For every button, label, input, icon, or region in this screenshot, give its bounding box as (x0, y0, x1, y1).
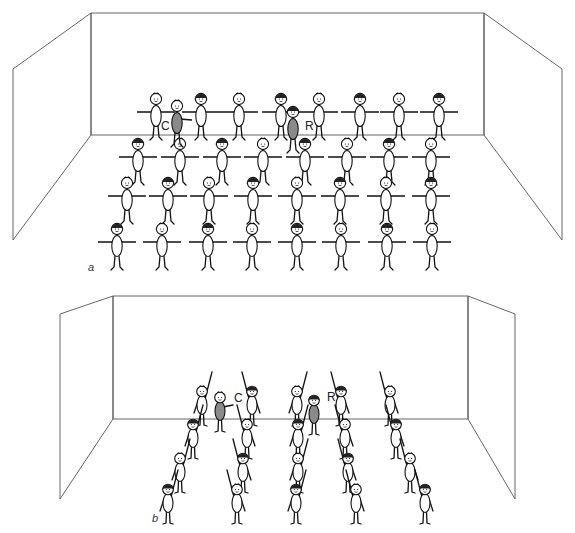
body-icon (242, 429, 252, 448)
body-icon (381, 190, 391, 211)
head-icon (313, 93, 324, 104)
back-wall (91, 13, 484, 135)
head-icon (405, 453, 416, 464)
body-icon (426, 190, 436, 211)
child-figure (413, 223, 451, 270)
body-icon (217, 151, 227, 172)
head-icon (197, 386, 208, 397)
back-wall (113, 296, 468, 419)
child-figure (400, 439, 418, 493)
child-figure (233, 223, 271, 270)
head-icon (171, 100, 182, 111)
child-figure (367, 177, 405, 224)
panel-label-a: a (88, 261, 94, 273)
body-icon (426, 151, 436, 172)
body-icon (175, 463, 185, 482)
body-icon (112, 236, 122, 257)
head-icon (233, 93, 244, 104)
body-icon (172, 113, 182, 134)
body-icon (258, 151, 268, 172)
body-icon (382, 236, 392, 257)
head-icon (150, 93, 161, 104)
body-icon (336, 396, 346, 415)
child-figure (328, 138, 366, 185)
head-icon (426, 223, 437, 234)
head-icon (341, 138, 352, 149)
body-icon (204, 190, 214, 211)
head-icon (215, 392, 226, 403)
body-icon (384, 151, 394, 172)
room-outline (60, 296, 515, 499)
body-icon (355, 106, 365, 127)
body-icon (420, 494, 430, 513)
body-icon (163, 494, 173, 513)
head-icon (156, 223, 167, 234)
child-figure (190, 177, 228, 224)
head-icon (293, 453, 304, 464)
body-icon (157, 236, 167, 257)
body-icon (394, 106, 404, 127)
body-icon (340, 429, 350, 448)
head-icon (380, 177, 391, 188)
body-icon (342, 151, 352, 172)
body-icon (391, 429, 401, 448)
head-icon (257, 138, 268, 149)
child-figure (386, 405, 404, 459)
body-icon (292, 236, 302, 257)
left-wall (13, 13, 91, 240)
body-icon (163, 190, 173, 211)
classroom-formation-diagram: CRa CRb (0, 0, 575, 533)
head-icon (121, 177, 132, 188)
child-figure (322, 223, 360, 270)
body-icon (215, 402, 225, 421)
body-icon (288, 119, 298, 140)
left-wall (60, 296, 113, 499)
head-icon (175, 453, 186, 464)
figure-canvas: CRa CRb (0, 0, 575, 533)
child-figure (143, 223, 181, 270)
body-icon (188, 429, 198, 448)
body-icon (335, 190, 345, 211)
body-icon (234, 106, 244, 127)
head-icon (291, 177, 302, 188)
head-icon (351, 484, 362, 495)
child-figure (149, 177, 187, 224)
head-icon (393, 93, 404, 104)
body-icon (247, 396, 257, 415)
child-figure (234, 177, 272, 224)
child-figure (286, 138, 324, 185)
child-figure (278, 223, 316, 270)
figure-C (215, 392, 233, 432)
child-figure (412, 177, 450, 224)
head-icon (242, 419, 253, 430)
child-figure (380, 93, 418, 140)
child-figure (420, 93, 458, 140)
child-figure (220, 93, 258, 140)
body-icon (133, 151, 143, 172)
child-figure (160, 470, 178, 524)
child-figure (242, 372, 260, 426)
right-wall (468, 296, 515, 499)
body-icon (434, 106, 444, 127)
figure-R (287, 106, 299, 153)
body-icon (232, 494, 242, 513)
body-icon (248, 190, 258, 211)
panel-a: CRa (13, 13, 562, 273)
body-icon (309, 405, 319, 424)
label-R: R (305, 119, 314, 133)
child-figure (98, 223, 136, 270)
head-icon (292, 386, 303, 397)
body-icon (175, 151, 185, 172)
body-icon (122, 190, 132, 211)
label-C: C (161, 119, 170, 133)
child-figure (182, 93, 220, 140)
body-icon (196, 106, 206, 127)
child-figure (341, 93, 379, 140)
body-icon (203, 236, 213, 257)
body-icon (293, 429, 303, 448)
child-figure (108, 177, 146, 224)
body-icon (197, 396, 207, 415)
head-icon (232, 484, 243, 495)
head-icon (385, 386, 396, 397)
body-icon (291, 494, 301, 513)
